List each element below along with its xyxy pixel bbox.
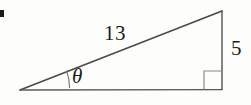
- angle-arc: [67, 71, 70, 88]
- scan-edge-artifact: [0, 10, 4, 17]
- hypotenuse-label: 13: [104, 23, 126, 44]
- angle-theta-label: θ: [72, 66, 82, 87]
- right-angle-marker: [204, 71, 222, 89]
- opposite-side-label: 5: [231, 38, 242, 59]
- triangle-figure: 13 5 θ: [0, 0, 251, 105]
- triangle-drawing: [0, 0, 251, 105]
